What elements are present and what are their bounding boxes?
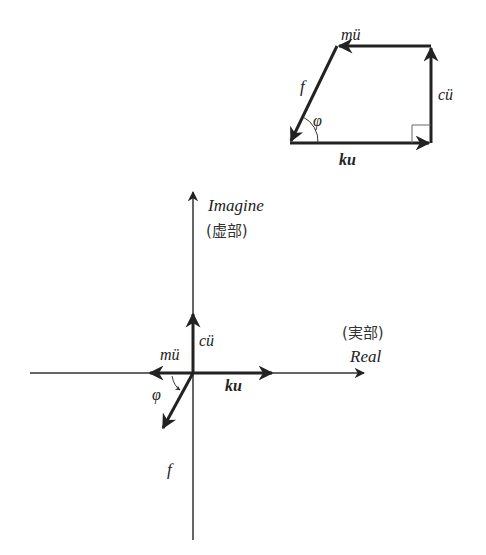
f-phasor-label: f [167,460,174,479]
real-axis-label-cjk: (実部) [342,324,384,342]
phi-phasor-label: φ [152,386,161,404]
f-phasor [163,373,193,428]
mu-phasor-label: mü [160,346,180,363]
imaginary-axis-label: Imagine [207,196,264,215]
cu-label: cü [438,86,453,103]
ku-label: ku [339,151,356,168]
force-polygon: mü cü ku f φ [290,26,453,168]
force-diagram: mü cü ku f φ Imagine (虚部) (実部) Real cü m… [0,0,486,555]
mu-label: mü [341,26,361,43]
right-angle-mark [412,125,431,143]
complex-plane: Imagine (虚部) (実部) Real cü mü ku φ f [30,192,384,540]
phi-label: φ [313,112,322,130]
imaginary-axis-label-cjk: (虚部) [206,222,248,240]
ku-phasor-label: ku [225,377,242,394]
cu-phasor-label: cü [199,332,214,349]
phi-arc-arrow [172,376,180,390]
f-label: f [300,77,307,96]
real-axis-label: Real [349,347,381,366]
